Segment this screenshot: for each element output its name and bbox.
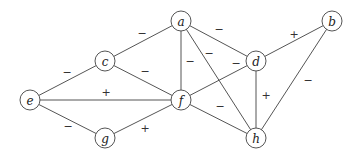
edge-sign-a-f: − [185, 55, 194, 68]
edge-sign-d-h: + [261, 89, 270, 102]
node-a: a [171, 11, 191, 31]
edge-sign-a-c: − [137, 27, 146, 40]
edge-sign-d-b: + [289, 28, 298, 41]
edge-sign-e-f: + [101, 86, 110, 99]
edge-signs-layer: −−−−−−+−+−−++− [62, 23, 312, 135]
node-label: b [328, 15, 336, 29]
edge-sign-a-h: − [204, 47, 213, 60]
node-e: e [20, 90, 40, 110]
edge-sign-a-d: − [214, 23, 223, 36]
node-label: d [252, 55, 260, 69]
node-f: f [171, 90, 191, 110]
edge-a-h [181, 21, 256, 138]
node-b: b [322, 11, 342, 31]
edge-sign-f-d: − [231, 57, 240, 70]
edge-sign-f-h: − [215, 100, 224, 113]
node-g: g [95, 128, 115, 148]
node-label: g [101, 132, 109, 146]
node-label: c [102, 55, 109, 69]
edge-d-b [256, 21, 332, 61]
edge-sign-e-g: − [63, 120, 72, 133]
node-d: d [246, 51, 266, 71]
edge-sign-b-h: − [303, 74, 312, 87]
edges-layer [30, 21, 332, 138]
node-c: c [95, 51, 115, 71]
edge-sign-c-f: − [140, 65, 149, 78]
node-label: a [177, 15, 184, 29]
node-label: e [26, 94, 33, 108]
node-label: h [252, 132, 260, 146]
edge-sign-c-e: − [62, 66, 71, 79]
node-h: h [246, 128, 266, 148]
signed-graph: −−−−−−+−+−−++− abcdefgh [0, 0, 358, 156]
edge-sign-g-f: + [140, 122, 149, 135]
